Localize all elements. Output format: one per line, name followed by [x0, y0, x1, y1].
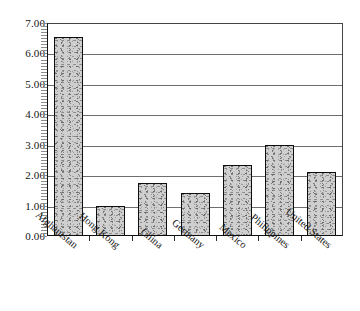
y-axis-tick-label: 3.00	[3, 139, 45, 150]
y-axis-tick-label: 7.00	[3, 18, 45, 29]
x-axis: AfghanistanHong KongChinaGermanyMexicoPh…	[0, 236, 360, 311]
y-axis-tick-label: 4.00	[3, 109, 45, 120]
y-axis-tick-label: 2.00	[3, 170, 45, 181]
y-axis-tick-label: 5.00	[3, 78, 45, 89]
bar-chart: 0.001.002.003.004.005.006.007.00 Afghani…	[0, 0, 360, 311]
bars-group	[47, 23, 343, 236]
y-axis-tick-label: 6.00	[3, 48, 45, 59]
bar	[54, 37, 83, 236]
